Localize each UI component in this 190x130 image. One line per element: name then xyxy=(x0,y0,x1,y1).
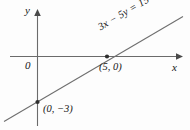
point-marker-x-intercept xyxy=(105,54,109,58)
point-marker-y-intercept xyxy=(35,100,39,104)
y-intercept-point-label: (0, −3) xyxy=(43,104,73,115)
origin-label: 0 xyxy=(25,60,31,71)
x-intercept-point-label: (5, 0) xyxy=(99,62,122,73)
y-axis-label: y xyxy=(25,5,30,16)
y-axis-arrow-icon xyxy=(34,9,41,16)
x-axis-arrow-icon xyxy=(176,53,183,60)
line-graph-figure: y x 0 (5, 0) (0, −3) 3x − 5y = 15 xyxy=(0,0,190,130)
x-axis-label: x xyxy=(172,62,177,73)
